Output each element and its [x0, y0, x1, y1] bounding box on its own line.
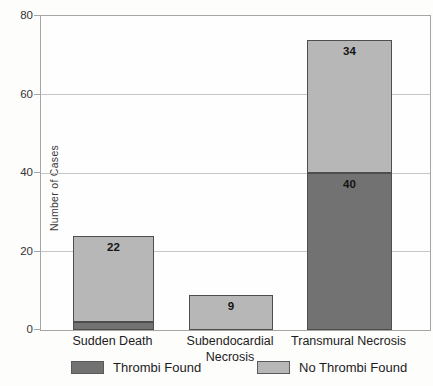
legend-label: Thrombi Found: [113, 360, 201, 375]
bar-value-label: 34: [307, 45, 392, 57]
y-tick-mark-40: [34, 172, 40, 173]
y-tick-label-60: 60: [0, 87, 33, 101]
bar-segment-thrombi-found-1: [73, 322, 154, 330]
bar-value-label: 22: [73, 241, 154, 253]
y-tick-label-80: 80: [0, 8, 33, 22]
bar-value-label: 9: [189, 300, 273, 312]
legend-swatch: [257, 361, 290, 374]
y-tick-mark-60: [34, 94, 40, 95]
y-tick-mark-80: [34, 15, 40, 16]
legend-item-thrombi-found: Thrombi Found: [71, 360, 201, 375]
legend-item-no-thrombi-found: No Thrombi Found: [257, 360, 407, 375]
y-tick-label-40: 40: [0, 165, 33, 179]
y-tick-mark-0: [34, 329, 40, 330]
x-category-label-3: Transmural Necrosis: [291, 334, 407, 350]
y-tick-label-20: 20: [0, 244, 33, 258]
plot-area: Number of Cases 22294034: [40, 15, 431, 331]
bar-value-label: 40: [307, 178, 392, 190]
bar-segment-no-thrombi-found-3: [307, 40, 392, 173]
y-tick-label-0: 0: [0, 322, 33, 336]
y-tick-mark-20: [34, 251, 40, 252]
bar-segment-thrombi-found-3: [307, 173, 392, 330]
legend-swatch: [71, 361, 104, 374]
y-axis-title: Number of Cases: [48, 102, 62, 274]
x-category-label-1: Sudden Death: [55, 334, 171, 350]
legend-label: No Thrombi Found: [299, 360, 407, 375]
stacked-bar-chart: Number of Cases 22294034 020406080 Sudde…: [0, 0, 433, 386]
